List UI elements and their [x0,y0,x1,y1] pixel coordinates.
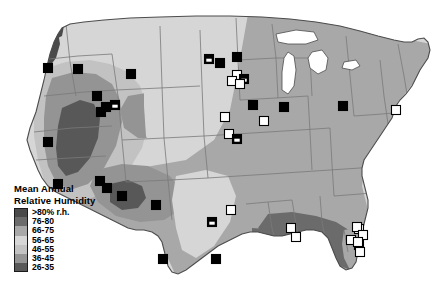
map-legend: Mean Annual Relative Humidity >80% r.h.7… [8,183,130,272]
site-marker-half [205,55,214,64]
site-marker-inset [112,105,117,108]
site-marker-half [208,218,217,227]
site-marker-filled [339,102,348,111]
site-marker-open [260,117,269,126]
legend-row: 76-80 [8,217,130,226]
site-marker-filled [216,59,225,68]
site-marker-open [221,113,230,122]
legend-row: 66-75 [8,226,130,235]
site-marker-filled [44,64,53,73]
site-marker-filled [233,53,242,62]
site-marker-half [111,101,120,110]
site-marker-inset [209,222,214,225]
legend-row: 46-55 [8,245,130,254]
site-marker-filled [93,92,102,101]
legend-entries: >80% r.h.76-8066-7556-6546-5536-4526-35 [8,208,130,272]
site-marker-inset [234,139,239,142]
site-marker-filled [159,255,168,264]
legend-swatch [14,217,28,226]
legend-row: 56-65 [8,236,130,245]
site-marker-filled [212,255,221,264]
legend-swatch [14,263,28,272]
legend-row: 26-35 [8,263,130,272]
site-marker-filled [44,138,53,147]
legend-row: 36-45 [8,254,130,263]
legend-swatch [14,254,28,263]
legend-swatch [14,236,28,245]
site-marker-half [233,135,242,144]
site-marker-filled [280,103,289,112]
site-marker-filled [127,70,136,79]
site-marker-open [392,106,401,115]
site-marker-filled [249,101,258,110]
legend-row: >80% r.h. [8,208,130,217]
humidity-map-figure: Mean Annual Relative Humidity >80% r.h.7… [0,0,440,296]
site-marker-open [227,206,236,215]
site-marker-open [236,80,245,89]
legend-swatch [14,226,28,235]
legend-swatch [14,245,28,254]
site-marker-filled [74,65,83,74]
site-marker-filled [152,201,161,210]
site-marker-open [287,224,296,233]
legend-label: 26-35 [32,263,54,272]
site-marker-filled [97,108,106,117]
site-marker-open [354,238,363,247]
legend-title: Mean Annual Relative Humidity [14,183,130,206]
site-marker-open [292,233,301,242]
site-marker-open [356,248,365,257]
legend-swatch [14,208,28,217]
site-marker-inset [206,59,211,62]
